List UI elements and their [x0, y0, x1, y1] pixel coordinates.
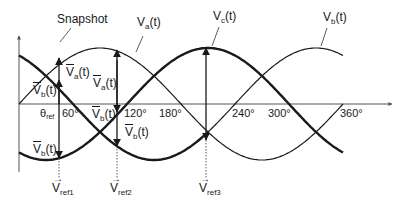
va-bar-label-1: Va(t) — [66, 66, 90, 78]
va-bar-label-2: Va(t) — [93, 77, 117, 89]
vc-leader — [212, 27, 219, 46]
vc-curve-label: Vc(t) — [213, 10, 236, 22]
tick-300: 300° — [268, 108, 291, 119]
vb-curve-label: Vb(t) — [323, 11, 347, 23]
vref2-label: →Vref2 — [110, 182, 132, 194]
tick-360: 360° — [340, 108, 363, 119]
va-leader — [136, 36, 143, 52]
snapshot-leader — [60, 28, 71, 42]
vb-leader — [321, 28, 327, 46]
vb-bar-label-2b: Vb(t) — [125, 126, 149, 138]
vb-bar-label-1b: Vb(t) — [33, 143, 57, 155]
theta-ref-label: θref — [40, 108, 54, 122]
tick-120: 120° — [124, 108, 147, 119]
va-curve-label: Va(t) — [137, 16, 161, 28]
tick-240: 240° — [232, 108, 255, 119]
vb-bar-label-1a: Vb(t) — [33, 84, 57, 96]
tick-60: 60° — [62, 108, 79, 119]
vref1-label: →Vref1 — [52, 182, 74, 194]
tick-180: 180° — [159, 108, 182, 119]
vref3-label: →Vref3 — [199, 182, 221, 194]
vb-bar-label-2a: Vb(t) — [92, 108, 116, 120]
three-phase-waveform-diagram — [0, 0, 410, 202]
snapshot-label: Snapshot — [57, 13, 108, 25]
